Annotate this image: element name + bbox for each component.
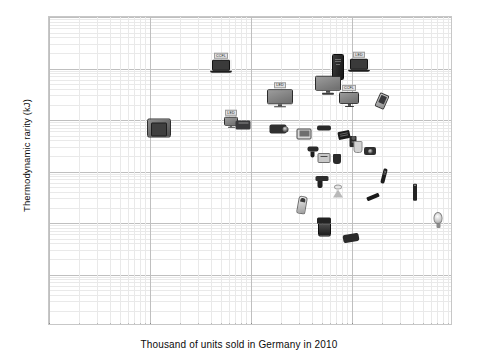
data-point-blender[interactable] [333, 154, 341, 164]
gridline-vertical [437, 17, 438, 324]
x-tick-mark [198, 323, 199, 325]
plot-area: 1000000100000100001000100101 11010010001… [48, 16, 452, 325]
data-point-shaver[interactable] [298, 196, 307, 214]
x-tick-mark [180, 323, 181, 325]
kettle-icon [354, 141, 363, 153]
data-point-led-bulb[interactable] [434, 212, 443, 228]
tv-icon [267, 89, 293, 108]
gridline-vertical [281, 17, 282, 324]
data-point-tv-flat[interactable] [315, 76, 341, 95]
x-tick-mark [246, 323, 247, 325]
blender-icon [333, 154, 341, 164]
mobile-phone-icon [377, 94, 387, 109]
gridline-vertical [330, 17, 331, 324]
x-tick-mark [110, 323, 111, 325]
toaster-icon [318, 153, 331, 163]
y-tick-mark [48, 69, 49, 70]
data-point-usb-stick[interactable] [367, 195, 380, 199]
printer-icon [236, 121, 251, 130]
x-tick-mark [448, 323, 449, 325]
x-tick-mark [437, 323, 438, 325]
data-point-game-console[interactable] [338, 131, 350, 139]
data-point-monitor[interactable]: CCFL [339, 85, 359, 107]
coffee-maker-icon [317, 218, 331, 237]
x-tick-mark [211, 323, 212, 325]
car-vacuum-icon [343, 234, 359, 242]
crt-monitor-icon [147, 119, 171, 138]
data-point-label: LED [225, 110, 236, 116]
battery-icon [413, 184, 417, 201]
x-tick-mark [120, 323, 121, 325]
gridline-vertical [150, 17, 151, 324]
data-point-label: CCFL [214, 53, 228, 59]
gridline-vertical [79, 17, 80, 324]
data-point-label: CCFL [342, 85, 356, 91]
x-tick-mark [281, 323, 282, 325]
x-tick-mark [251, 323, 252, 325]
data-point-coffee-maker[interactable] [317, 218, 331, 237]
x-tick-mark [423, 323, 424, 325]
data-point-tablet[interactable] [297, 129, 312, 140]
x-axis-title: Thousand of units sold in Germany in 201… [0, 339, 478, 350]
gridline-vertical [423, 17, 424, 324]
data-point-printer[interactable] [236, 121, 251, 130]
data-point-car-vacuum[interactable] [343, 234, 359, 242]
data-point-toaster[interactable] [318, 153, 331, 163]
x-tick-mark [352, 323, 353, 325]
data-point-drill[interactable] [316, 176, 329, 188]
gridline-vertical [97, 17, 98, 324]
monitor-icon [339, 92, 359, 107]
data-point-spotlight-bulb[interactable] [333, 185, 343, 198]
data-point-tv[interactable]: LED [267, 82, 293, 107]
gridline-vertical [198, 17, 199, 324]
x-tick-mark [221, 323, 222, 325]
gridline-vertical [322, 17, 323, 324]
data-point-mobile-phone[interactable] [377, 94, 387, 109]
y-tick-mark [48, 17, 49, 18]
tv-flat-icon [315, 76, 341, 95]
gridline-vertical [235, 17, 236, 324]
x-tick-mark [413, 323, 414, 325]
dvd-player-icon [317, 126, 331, 131]
y-tick-mark [48, 223, 49, 224]
x-tick-mark [134, 323, 135, 325]
gridline-vertical [128, 17, 129, 324]
game-console-icon [338, 131, 350, 139]
x-tick-mark [79, 323, 80, 325]
gridline-vertical [49, 17, 50, 324]
remote-control-icon [382, 169, 386, 184]
gridline-vertical [413, 17, 414, 324]
gridline-vertical [145, 17, 146, 324]
led-bulb-icon [434, 212, 443, 228]
data-point-camera[interactable] [364, 147, 376, 155]
y-tick-mark [48, 275, 49, 276]
data-point-laptop[interactable]: CCFL [210, 53, 232, 73]
data-point-laptop[interactable]: LED [348, 52, 370, 72]
laptop-icon [348, 59, 370, 73]
x-tick-mark [431, 323, 432, 325]
gridline-vertical [140, 17, 141, 324]
gridline-vertical [241, 17, 242, 324]
y-tick-mark [48, 120, 49, 121]
gridline-vertical [431, 17, 432, 324]
x-tick-mark [342, 323, 343, 325]
tablet-icon [297, 129, 312, 140]
data-point-camcorder[interactable] [270, 125, 287, 134]
gridline-vertical [443, 17, 444, 324]
data-point-kettle[interactable] [354, 141, 363, 153]
data-point-dvd-player[interactable] [317, 126, 331, 131]
x-tick-mark [128, 323, 129, 325]
gridline-vertical [400, 17, 401, 324]
spotlight-bulb-icon [333, 185, 343, 198]
shaver-icon [298, 196, 307, 214]
gridline-vertical [246, 17, 247, 324]
data-point-crt-monitor[interactable] [147, 119, 171, 138]
data-point-label: LED [353, 52, 364, 58]
y-axis-title: Thermodynamic rarity (kJ) [21, 81, 32, 231]
chart-figure: Thermodynamic rarity (kJ) Thousand of un… [0, 0, 478, 359]
x-tick-mark [235, 323, 236, 325]
data-point-remote-control[interactable] [382, 169, 386, 184]
drill-icon [316, 176, 329, 188]
gridline-vertical [312, 17, 313, 324]
data-point-battery[interactable] [413, 184, 417, 201]
